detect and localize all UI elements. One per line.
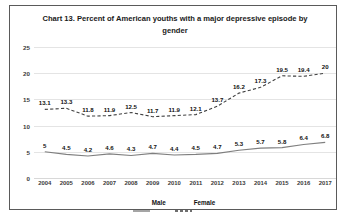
x-axis-tick: 2016	[297, 180, 310, 186]
x-axis-tick: 2004	[38, 180, 51, 186]
x-axis-tick: 2006	[81, 180, 94, 186]
data-label-male-2009: 4.7	[148, 143, 156, 150]
y-axis-tick: 25	[23, 44, 30, 51]
x-axis-tick: 2015	[276, 180, 289, 186]
data-label-female-2009: 11.7	[147, 107, 159, 114]
data-label-male-2016: 6.4	[299, 134, 307, 141]
x-axis-tick: 2014	[254, 180, 267, 186]
legend-label: Female	[194, 199, 216, 206]
y-axis-tick: 15	[23, 96, 30, 103]
gridline	[34, 178, 336, 179]
data-label-male-2015: 5.8	[278, 138, 286, 145]
data-label-female-2011: 12.1	[190, 105, 202, 112]
x-axis-tick: 2008	[125, 180, 138, 186]
y-axis-tick: 0	[27, 175, 30, 182]
x-axis-tick: 2010	[168, 180, 181, 186]
x-axis-tick: 2013	[232, 180, 245, 186]
chart-legend: MaleFemale	[10, 199, 338, 206]
x-axis-tick: 2012	[211, 180, 224, 186]
x-axis-tick-labels: 2004200520062007200820092010201120122013…	[34, 180, 336, 192]
chart-container: Chart 13. Percent of American youths wit…	[9, 5, 337, 210]
data-label-female-2004: 13.1	[39, 99, 51, 106]
data-label-male-2012: 4.7	[213, 143, 221, 150]
data-label-male-2017: 6.8	[321, 132, 329, 139]
data-label-female-2005: 13.3	[60, 98, 72, 105]
data-label-female-2008: 12.5	[125, 103, 137, 110]
data-label-male-2013: 5.3	[235, 140, 243, 147]
legend-item-female[interactable]: Female	[175, 199, 216, 206]
data-label-male-2006: 4.2	[84, 146, 92, 153]
data-label-male-2011: 4.5	[192, 144, 200, 151]
legend-item-male[interactable]: Male	[133, 199, 166, 206]
chart-title: Chart 13. Percent of American youths wit…	[32, 13, 318, 37]
y-axis-tick: 5	[27, 148, 30, 155]
legend-swatch-solid-line-icon	[133, 200, 150, 206]
data-label-female-2007: 11.9	[104, 106, 116, 113]
series-lines	[34, 47, 336, 178]
data-label-male-2010: 4.4	[170, 145, 178, 152]
data-label-female-2013: 16.2	[233, 83, 245, 90]
x-axis-tick: 2011	[189, 180, 202, 186]
x-axis-tick: 2017	[319, 180, 332, 186]
data-label-female-2010: 11.9	[168, 106, 180, 113]
x-axis-tick: 2007	[103, 180, 116, 186]
data-label-male-2007: 4.6	[105, 144, 113, 151]
data-label-female-2015: 19.5	[276, 66, 288, 73]
x-axis-tick: 2005	[60, 180, 73, 186]
legend-swatch-dashed-line-icon	[175, 200, 192, 206]
data-label-female-2012: 13.7	[211, 96, 223, 103]
data-label-female-2016: 19.4	[298, 66, 310, 73]
data-label-male-2008: 4.3	[127, 145, 135, 152]
data-label-male-2005: 4.5	[62, 144, 70, 151]
data-label-male-2014: 5.7	[256, 138, 264, 145]
y-axis-tick: 10	[23, 122, 30, 129]
data-label-male-2004: 5	[43, 142, 46, 149]
x-axis-tick: 2009	[146, 180, 159, 186]
data-label-female-2017: 20	[322, 63, 329, 70]
data-label-female-2014: 17.3	[255, 77, 267, 84]
y-axis-tick: 20	[23, 70, 30, 77]
data-label-female-2006: 11.8	[82, 106, 94, 113]
plot-area: 0510152025 54.54.24.64.34.74.44.54.75.35…	[34, 47, 336, 178]
legend-label: Male	[152, 199, 166, 206]
